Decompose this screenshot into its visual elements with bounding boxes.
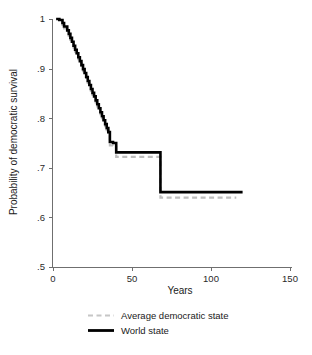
x-tick-label: 0 — [50, 273, 55, 284]
y-tick-label: .8 — [37, 113, 45, 124]
y-tick-label: 1 — [40, 13, 45, 24]
x-tick-label: 150 — [282, 273, 298, 284]
y-axis-title: Probability of democratic survival — [8, 69, 19, 215]
legend-label-average-democratic-state: Average democratic state — [121, 310, 229, 321]
y-tick-label: .9 — [37, 63, 45, 74]
y-tick-label: .7 — [37, 162, 45, 173]
x-tick-label: 100 — [203, 273, 219, 284]
x-axis-ticks: 050100150 — [50, 267, 298, 284]
y-tick-label: .5 — [37, 261, 45, 272]
y-axis-ticks: .5.6.7.8.91 — [37, 13, 53, 272]
survival-curve-figure: .5.6.7.8.91 050100150 Probability of dem… — [0, 0, 312, 355]
chart-canvas: .5.6.7.8.91 050100150 Probability of dem… — [0, 0, 312, 355]
y-tick-label: .6 — [37, 212, 45, 223]
legend-label-world-state: World state — [121, 325, 169, 336]
series-world-state — [56, 19, 242, 192]
series-average-democratic-state — [56, 19, 236, 198]
x-axis-title: Years — [167, 285, 192, 296]
x-tick-label: 50 — [127, 273, 138, 284]
legend: Average democratic state World state — [88, 310, 229, 336]
